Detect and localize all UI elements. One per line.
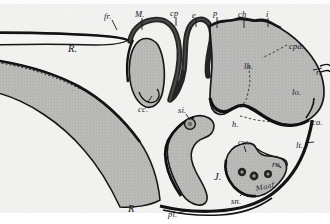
label-sn: sn.	[231, 197, 241, 206]
anatomical-figure: fr. M. cp e p ch i cpa. r. lh. lo. ca. l…	[0, 0, 330, 224]
label-M: M.	[135, 10, 145, 19]
label-R-inferior: R	[128, 204, 135, 215]
label-p: p	[213, 9, 217, 18]
label-J: J.	[214, 172, 222, 183]
label-cp: cp	[170, 9, 178, 18]
label-i: i	[266, 10, 269, 19]
illustration-plate	[0, 0, 330, 224]
label-cpa: cpa.	[289, 42, 304, 51]
label-R-superior: R.	[68, 44, 77, 55]
label-lt: lt.	[296, 141, 303, 150]
label-ca: ca.	[312, 118, 323, 127]
label-ch: ch	[238, 10, 246, 19]
label-pl: pl.	[168, 210, 177, 219]
label-cc: cc.	[138, 105, 148, 114]
plate-top-margin	[0, 0, 330, 4]
label-cw: cw.	[238, 138, 250, 147]
label-e: e	[192, 11, 196, 20]
label-h: h.	[232, 120, 239, 129]
label-fr: fr.	[104, 12, 111, 21]
label-lo: lo.	[292, 88, 301, 97]
label-lh: lh.	[244, 62, 253, 71]
label-si: si.	[178, 106, 186, 115]
label-r: r.	[316, 68, 321, 77]
plate-bottom-margin	[0, 213, 330, 224]
label-ro: ro.	[272, 160, 282, 169]
